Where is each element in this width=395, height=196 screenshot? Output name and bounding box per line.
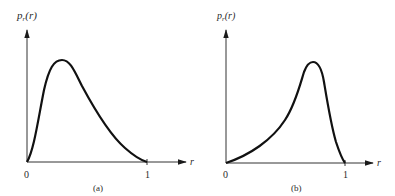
x-tick-0-b: 0 <box>223 169 228 180</box>
x-tick-1-a: 1 <box>145 169 150 180</box>
x-tick-1-b: 1 <box>343 169 348 180</box>
y-axis-label-b: pr(r) <box>216 10 236 23</box>
panel-b: pr(r) r 0 1 (b) <box>216 10 381 193</box>
figure: pr(r) r 0 1 (a) pr(r) r 0 1 (b) <box>0 0 395 196</box>
panel-label-b: (b) <box>291 183 302 193</box>
x-tick-0-a: 0 <box>24 169 29 180</box>
x-axis-label-b: r <box>377 157 381 168</box>
panel-label-a: (a) <box>93 183 103 193</box>
x-axis-label-a: r <box>190 156 194 167</box>
panel-a: pr(r) r 0 1 (a) <box>16 9 194 193</box>
density-curve-a <box>27 60 147 162</box>
y-axis-label-a: pr(r) <box>16 9 37 23</box>
density-curve-b <box>226 62 345 163</box>
